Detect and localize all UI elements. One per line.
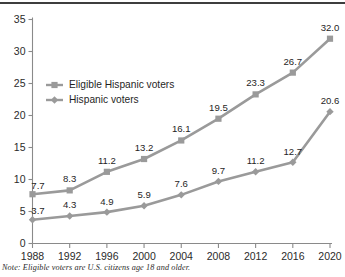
x-tick-label: 2020 <box>318 250 342 262</box>
data-point-marker-diamond <box>215 178 222 185</box>
data-point-marker-square <box>253 91 259 97</box>
data-point-label: 11.2 <box>98 155 116 166</box>
legend-marker-square <box>51 82 57 88</box>
data-point-label: 11.2 <box>247 155 265 166</box>
y-axis-ticks: 05101520253035 <box>14 13 33 249</box>
x-tick-label: 1988 <box>21 250 45 262</box>
data-point-label: 12.7 <box>283 146 302 157</box>
footnote-label: Note: <box>2 263 21 272</box>
data-point-label: 13.2 <box>135 142 154 153</box>
x-tick-label: 1996 <box>95 250 119 262</box>
data-point-marker-square <box>29 191 35 197</box>
data-point-label: 4.3 <box>63 199 76 210</box>
data-point-marker-diamond <box>29 216 36 223</box>
line-chart-plot: 05101520253035 1988199219962000200420082… <box>0 0 345 277</box>
x-tick-label: 1992 <box>58 250 82 262</box>
data-point-marker-square <box>290 70 296 76</box>
y-tick-label: 10 <box>14 173 26 185</box>
data-point-label: 8.3 <box>63 173 76 184</box>
data-point-label: 4.9 <box>100 196 113 207</box>
data-point-marker-square <box>327 36 333 42</box>
data-point-label: 16.1 <box>172 123 191 134</box>
data-point-label: 32.0 <box>321 22 340 33</box>
y-tick-label: 35 <box>14 13 26 25</box>
x-axis-ticks: 198819921996200020042008201220162020 <box>21 244 342 262</box>
chart-legend[interactable]: Eligible Hispanic votersHispanic voters <box>46 79 174 105</box>
data-point-label: 26.7 <box>283 56 302 67</box>
legend-item-2[interactable]: Hispanic voters <box>46 94 139 105</box>
x-tick-label: 2012 <box>244 250 268 262</box>
legend-marker-diamond <box>51 96 58 103</box>
data-point-label: 20.6 <box>321 95 340 106</box>
data-point-marker-square <box>141 156 147 162</box>
data-point-label: 23.3 <box>246 77 265 88</box>
data-point-label: 7.7 <box>31 180 44 191</box>
x-tick-label: 2000 <box>132 250 156 262</box>
data-point-marker-diamond <box>140 202 147 209</box>
data-point-label: 5.9 <box>137 189 150 200</box>
y-tick-label: 15 <box>14 141 26 153</box>
data-point-label: 19.5 <box>209 102 228 113</box>
chart-footnote: Note: Eligible voters are U.S. citizens … <box>2 263 343 272</box>
x-tick-label: 2008 <box>207 250 231 262</box>
y-tick-label: 20 <box>14 109 26 121</box>
data-point-label: 3.7 <box>31 205 44 216</box>
data-point-marker-square <box>215 116 221 122</box>
legend-label: Hispanic voters <box>69 94 139 105</box>
x-tick-label: 2016 <box>281 250 305 262</box>
y-tick-label: 0 <box>20 237 26 249</box>
data-point-marker-diamond <box>103 208 110 215</box>
data-point-label: 7.6 <box>175 178 188 189</box>
y-tick-label: 30 <box>14 45 26 57</box>
footnote-text: Eligible voters are U.S. citizens age 18… <box>23 263 190 272</box>
data-point-label: 9.7 <box>212 165 225 176</box>
data-point-marker-diamond <box>66 212 73 219</box>
data-point-marker-diamond <box>178 191 185 198</box>
legend-label: Eligible Hispanic voters <box>69 79 174 90</box>
legend-item-1[interactable]: Eligible Hispanic voters <box>46 79 174 90</box>
data-point-marker-square <box>104 169 110 175</box>
data-point-marker-square <box>67 187 73 193</box>
data-point-marker-square <box>178 137 184 143</box>
y-tick-label: 5 <box>20 205 26 217</box>
data-point-marker-diamond <box>252 168 259 175</box>
y-tick-label: 25 <box>14 77 26 89</box>
x-tick-label: 2004 <box>170 250 194 262</box>
chart-figure: 05101520253035 1988199219962000200420082… <box>0 0 345 277</box>
